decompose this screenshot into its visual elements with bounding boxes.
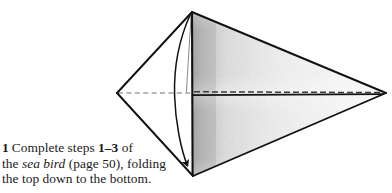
caption-step-range: 1–3 [98,140,118,155]
caption-line-3: the top down to the bottom. [2,171,212,187]
caption-line-2: the sea bird (page 50), folding [2,156,212,172]
step-number: 1 [2,140,12,155]
left-upper-edge [117,12,192,93]
caption-line-2-text-a: the [2,156,22,171]
caption-line-1: 1Complete steps 1–3 of [2,140,212,156]
caption-line-1-text-a: Complete steps [12,140,98,155]
caption-line-1-text-b: of [118,140,133,155]
model-name: sea bird [22,156,65,171]
fold-guide-line [186,14,191,92]
caption-block: 1Complete steps 1–3 of the sea bird (pag… [2,140,212,187]
caption-line-2-text-b: (page 50), folding [65,156,166,171]
flap-edge-right [192,94,384,95]
figure-panel: 1Complete steps 1–3 of the sea bird (pag… [0,0,392,193]
